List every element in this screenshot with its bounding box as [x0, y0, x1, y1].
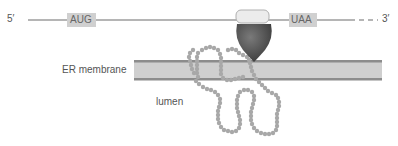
er-membrane [134, 60, 382, 80]
ribosome-small-subunit [236, 10, 269, 23]
five-prime-label: 5′ [7, 13, 14, 24]
membrane-top-edge [134, 60, 382, 63]
three-prime-label: 3′ [382, 13, 389, 24]
start-codon-label: AUG [70, 14, 92, 25]
lumen-label: lumen [156, 96, 183, 107]
translocation-diagram [0, 0, 398, 146]
stop-codon-label: UAA [291, 14, 312, 25]
polypeptide-chain [187, 45, 281, 136]
er-membrane-label: ER membrane [62, 64, 126, 75]
